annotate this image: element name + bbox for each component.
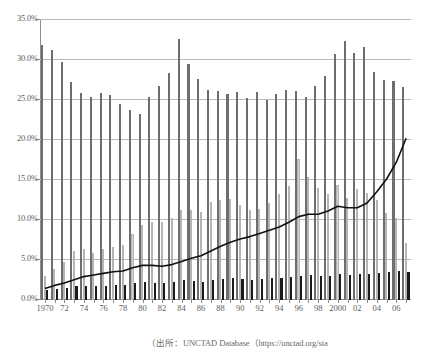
x-axis-tick	[191, 299, 192, 303]
y-axis-tick	[36, 299, 40, 300]
x-axis-tick-label: 96	[294, 303, 303, 313]
x-axis-tick-label: 78	[119, 303, 128, 313]
y-axis-tick-label: 15.0%	[0, 173, 38, 183]
x-axis-tick	[64, 299, 65, 303]
x-axis-tick	[250, 299, 251, 303]
x-axis-tick	[396, 299, 397, 303]
x-axis-tick	[338, 299, 339, 303]
x-axis-tick	[367, 299, 368, 303]
x-axis-tick	[123, 299, 124, 303]
x-axis-tick-label: 94	[275, 303, 284, 313]
x-axis-tick	[143, 299, 144, 303]
line-series-layer	[40, 19, 411, 300]
x-axis-tick-label: 84	[177, 303, 186, 313]
y-axis-tick-label: 10.0%	[0, 213, 38, 223]
x-axis-tick	[182, 299, 183, 303]
x-axis-tick	[328, 299, 329, 303]
x-axis-tick	[240, 299, 241, 303]
caption-text: （出所：UNCTAD Database（https://unctad.org/s…	[105, 336, 327, 348]
x-axis-tick	[84, 299, 85, 303]
y-axis-tick	[36, 99, 40, 100]
x-axis-tick-label: 88	[216, 303, 225, 313]
x-axis-tick	[377, 299, 378, 303]
y-axis-tick	[36, 179, 40, 180]
x-axis-tick-label: 80	[138, 303, 147, 313]
x-axis-tick	[230, 299, 231, 303]
x-axis-tick-label: 02	[353, 303, 362, 313]
chart-source-caption: （出所：UNCTAD Database（https://unctad.org/s…	[0, 336, 433, 348]
y-axis-tick	[36, 259, 40, 260]
x-axis-tick	[348, 299, 349, 303]
x-axis-tick-label: 76	[99, 303, 108, 313]
x-axis-tick-label: 90	[236, 303, 245, 313]
x-axis-tick	[279, 299, 280, 303]
x-axis-tick	[55, 299, 56, 303]
x-axis-tick	[308, 299, 309, 303]
x-axis-tick	[45, 299, 46, 303]
x-axis-tick	[133, 299, 134, 303]
x-axis-tick	[201, 299, 202, 303]
chart-container: 0.0%5.0%10.0%15.0%20.0%25.0%30.0%35.0% 1…	[0, 0, 433, 360]
x-axis-tick	[74, 299, 75, 303]
x-axis-tick	[387, 299, 388, 303]
x-axis-tick	[289, 299, 290, 303]
y-axis-tick	[36, 139, 40, 140]
x-axis-tick	[406, 299, 407, 303]
x-axis-tick	[113, 299, 114, 303]
y-axis-tick-label: 35.0%	[0, 13, 38, 23]
x-axis-tick-label: 2000	[329, 303, 346, 313]
x-axis-tick-label: 82	[158, 303, 167, 313]
x-axis-tick	[221, 299, 222, 303]
x-axis-tick	[269, 299, 270, 303]
x-axis-tick-label: 06	[392, 303, 401, 313]
y-axis-tick-label: 20.0%	[0, 133, 38, 143]
x-axis-tick	[172, 299, 173, 303]
x-axis-tick-label: 74	[80, 303, 89, 313]
x-axis-tick	[162, 299, 163, 303]
x-axis-tick-label: 92	[255, 303, 264, 313]
line-series-svg	[40, 19, 411, 300]
x-axis-tick	[152, 299, 153, 303]
x-axis-tick-label: 04	[373, 303, 382, 313]
x-axis-tick	[211, 299, 212, 303]
y-axis-tick-label: 5.0%	[0, 253, 38, 263]
trend-line	[45, 138, 406, 288]
y-axis-tick	[36, 219, 40, 220]
y-axis-tick-label: 30.0%	[0, 53, 38, 63]
x-axis-tick	[357, 299, 358, 303]
x-axis-tick	[103, 299, 104, 303]
x-axis-tick	[94, 299, 95, 303]
x-axis-tick	[318, 299, 319, 303]
x-axis-tick-label: 1970	[36, 303, 53, 313]
x-axis-tick-label: 98	[314, 303, 323, 313]
y-axis-tick-label: 0.0%	[0, 293, 38, 303]
x-axis-tick	[299, 299, 300, 303]
x-axis-tick-label: 72	[60, 303, 69, 313]
x-axis-tick	[260, 299, 261, 303]
x-axis-tick-label: 86	[197, 303, 206, 313]
x-axis-labels: 1970727476788082848688909294969820000204…	[0, 303, 433, 319]
y-axis-tick	[36, 59, 40, 60]
y-axis-tick-label: 25.0%	[0, 93, 38, 103]
y-axis-tick	[36, 19, 40, 20]
